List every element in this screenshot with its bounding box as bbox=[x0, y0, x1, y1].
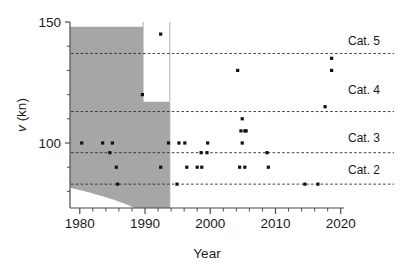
data-point bbox=[159, 33, 162, 36]
x-tick-label: 2010 bbox=[260, 216, 290, 231]
data-point bbox=[200, 166, 203, 169]
data-point bbox=[108, 151, 111, 154]
category-label-cat-2: Cat. 2 bbox=[348, 163, 380, 177]
data-point bbox=[205, 151, 208, 154]
data-point bbox=[183, 141, 186, 144]
data-point bbox=[80, 141, 83, 144]
data-point bbox=[111, 141, 114, 144]
data-point bbox=[101, 141, 104, 144]
data-point bbox=[167, 141, 170, 144]
data-point bbox=[265, 151, 268, 154]
data-point bbox=[330, 69, 333, 72]
x-tick-label: 2000 bbox=[195, 216, 225, 231]
category-label-cat-5: Cat. 5 bbox=[348, 34, 380, 48]
data-point bbox=[185, 166, 188, 169]
data-point bbox=[241, 141, 244, 144]
data-point bbox=[206, 141, 209, 144]
data-point bbox=[243, 166, 246, 169]
category-label-cat-4: Cat. 4 bbox=[348, 83, 380, 97]
data-point bbox=[316, 183, 319, 186]
x-tick-label: 1980 bbox=[65, 216, 95, 231]
x-tick-label: 2020 bbox=[326, 216, 356, 231]
data-point bbox=[159, 166, 162, 169]
x-axis-title: Year bbox=[193, 246, 221, 261]
data-point bbox=[200, 151, 203, 154]
data-point bbox=[141, 93, 144, 96]
data-point bbox=[267, 166, 270, 169]
data-point bbox=[177, 141, 180, 144]
y-axis-title: v (kn) bbox=[14, 98, 29, 132]
y-tick-label: 150 bbox=[38, 15, 61, 30]
data-point bbox=[115, 166, 118, 169]
axis-labels: 10015019801990200020102020Yearv (kn) bbox=[14, 15, 356, 261]
figure-container: Cat. 5Cat. 4Cat. 3Cat. 2 100150198019902… bbox=[0, 0, 400, 267]
data-point bbox=[175, 183, 178, 186]
data-point bbox=[303, 183, 306, 186]
category-label-cat-3: Cat. 3 bbox=[348, 131, 380, 145]
data-point bbox=[239, 129, 242, 132]
data-point bbox=[245, 129, 248, 132]
data-point bbox=[236, 69, 239, 72]
data-point bbox=[241, 117, 244, 120]
data-point bbox=[323, 105, 326, 108]
x-tick-label: 1990 bbox=[130, 216, 160, 231]
data-point bbox=[116, 183, 119, 186]
scatter-chart: Cat. 5Cat. 4Cat. 3Cat. 2 100150198019902… bbox=[0, 0, 400, 267]
y-tick-label: 100 bbox=[38, 136, 61, 151]
data-point bbox=[238, 166, 241, 169]
data-point bbox=[196, 166, 199, 169]
data-point bbox=[330, 57, 333, 60]
